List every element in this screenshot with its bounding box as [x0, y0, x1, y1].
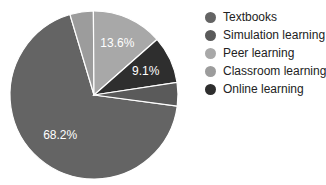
legend-swatch-icon [205, 66, 216, 77]
legend-swatch-icon [205, 12, 216, 23]
legend-swatch-icon [205, 30, 216, 41]
legend-swatch-icon [205, 84, 216, 95]
legend-item-simulation-learning[interactable]: Simulation learning [205, 26, 326, 44]
legend-label: Peer learning [223, 46, 294, 60]
pie-chart: 68.2%13.6%9.1% [0, 0, 200, 185]
legend-label: Simulation learning [223, 28, 325, 42]
legend-item-classroom-learning[interactable]: Classroom learning [205, 62, 326, 80]
slice-value-label: 13.6% [100, 36, 134, 50]
legend-label: Classroom learning [223, 64, 326, 78]
slice-value-label: 9.1% [132, 64, 160, 78]
legend-item-peer-learning[interactable]: Peer learning [205, 44, 326, 62]
legend-label: Online learning [223, 82, 304, 96]
chart-legend: Textbooks Simulation learning Peer learn… [205, 8, 326, 98]
legend-item-online-learning[interactable]: Online learning [205, 80, 326, 98]
slice-value-label: 68.2% [43, 128, 77, 142]
legend-item-textbooks[interactable]: Textbooks [205, 8, 326, 26]
legend-swatch-icon [205, 48, 216, 59]
legend-label: Textbooks [223, 10, 277, 24]
